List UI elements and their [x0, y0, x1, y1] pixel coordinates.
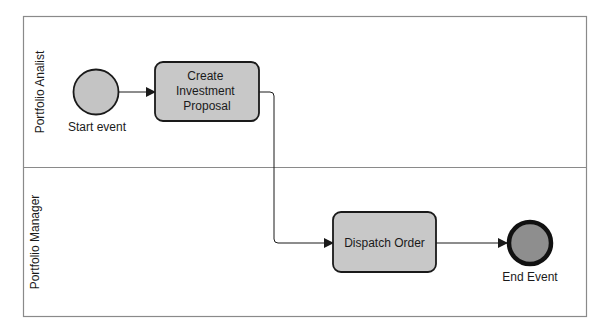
end-event-icon	[509, 222, 551, 264]
task-create-investment-proposal[interactable]: Create Investment Proposal	[155, 62, 259, 121]
lane-label-portfolio-analist: Portfolio Analist	[33, 50, 47, 133]
start-event-label: Start event	[68, 120, 127, 134]
bpmn-diagram: Portfolio Analist Portfolio Manager Star…	[0, 0, 609, 327]
start-event-icon	[74, 70, 119, 115]
task-dispatch-order[interactable]: Dispatch Order	[333, 212, 436, 272]
end-event-label: End Event	[502, 270, 558, 284]
lane-label-portfolio-manager: Portfolio Manager	[28, 195, 42, 290]
start-event[interactable]	[74, 70, 119, 115]
end-event[interactable]	[509, 222, 551, 264]
task-2-label: Dispatch Order	[344, 236, 425, 250]
